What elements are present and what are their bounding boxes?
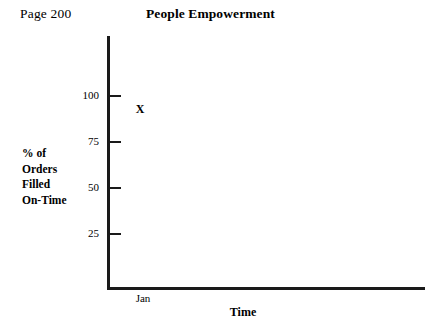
x-axis-line bbox=[107, 287, 425, 290]
y-axis-title-line-3: Filled bbox=[22, 177, 98, 193]
y-axis-tick bbox=[110, 187, 121, 189]
y-axis-title: % of Orders Filled On-Time bbox=[22, 146, 98, 208]
x-axis-title: Time bbox=[213, 305, 273, 320]
chart-page: Page 200 People Empowerment 100755025 Ja… bbox=[0, 0, 442, 330]
y-axis-tick-label: 25 bbox=[73, 228, 99, 239]
x-axis-tick-label: Jan bbox=[121, 292, 165, 304]
y-axis-line bbox=[107, 36, 110, 290]
y-axis-tick bbox=[110, 95, 121, 97]
plot-area: 100755025 Jan X % of Orders Filled On-Ti… bbox=[0, 0, 442, 330]
y-axis-title-line-2: Orders bbox=[22, 162, 98, 178]
y-axis-title-line-4: On-Time bbox=[22, 193, 98, 209]
data-point-marker: X bbox=[132, 102, 148, 116]
y-axis-tick-label: 100 bbox=[73, 90, 99, 101]
y-axis-title-line-1: % of bbox=[22, 146, 98, 162]
y-axis-tick bbox=[110, 141, 121, 143]
y-axis-tick bbox=[110, 233, 121, 235]
